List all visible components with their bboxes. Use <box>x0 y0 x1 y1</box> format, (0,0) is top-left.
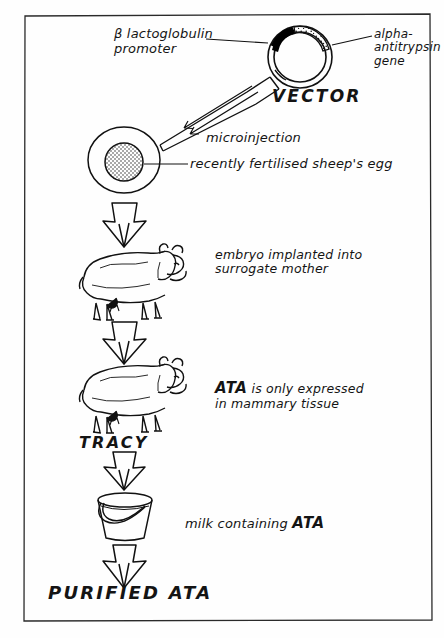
egg-cell-icon <box>88 127 160 193</box>
diagram-artwork <box>0 0 444 638</box>
sheep-icon <box>79 357 186 433</box>
label-gene: alpha- antitrypsin gene <box>374 28 441 68</box>
diagram-canvas: β lactoglobulin promoter alpha- antitryp… <box>0 0 444 638</box>
leader-promoter <box>206 39 268 43</box>
label-milk-prefix: milk containing <box>185 516 292 531</box>
block-arrow-down-icon <box>104 452 145 490</box>
label-promoter: β lactoglobulin promoter <box>114 27 213 56</box>
block-arrow-down-icon <box>103 203 146 247</box>
label-milk-ata: ATA <box>292 514 324 532</box>
label-embryo-implant: embryo implanted into surrogate mother <box>215 248 362 276</box>
label-microinjection: microinjection <box>206 131 301 146</box>
label-tracy: TRACY <box>79 434 148 452</box>
label-egg: recently fertilised sheep's egg <box>190 157 393 172</box>
label-vector: VECTOR <box>272 87 362 106</box>
label-expression-ata: ATA <box>215 379 247 397</box>
label-purified-ata: PURIFIED ATA <box>48 583 212 603</box>
plasmid-ring-icon <box>268 26 332 88</box>
block-arrow-down-icon <box>103 322 146 364</box>
label-milk: milk containing ATA <box>185 500 325 531</box>
bucket-icon <box>98 493 152 541</box>
label-expression: ATA is only expressed in mammary tissue <box>215 366 364 411</box>
leader-gene <box>332 36 372 45</box>
sheep-icon <box>79 244 186 320</box>
